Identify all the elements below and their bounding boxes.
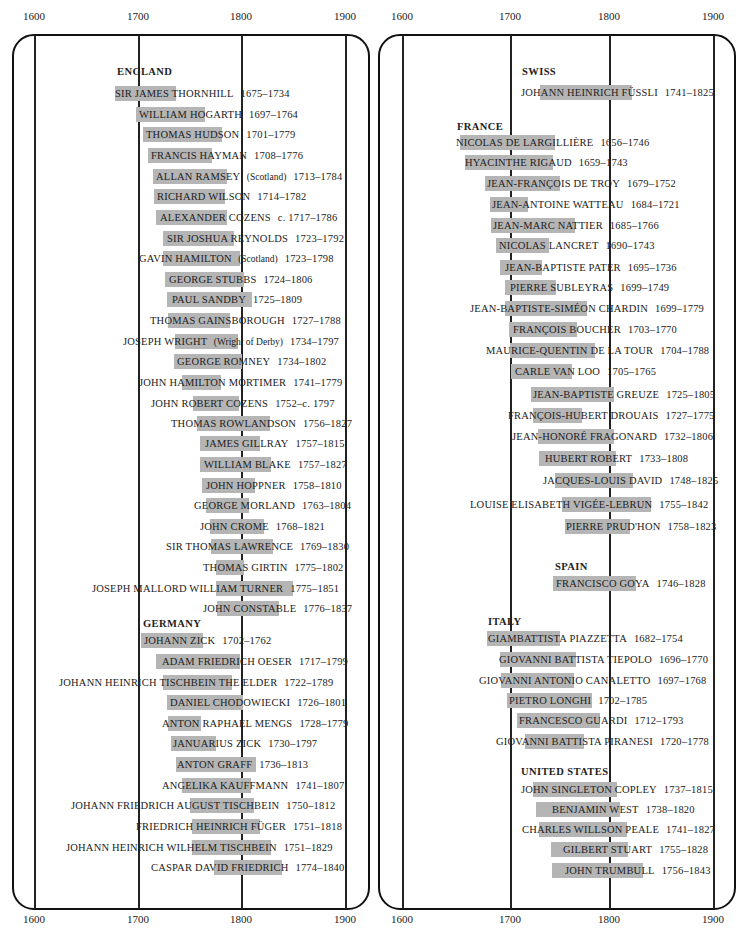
axis-tick-bottom-left: 1800: [230, 913, 252, 925]
artist-name: THOMAS HUDSON: [146, 129, 239, 140]
artist-entry: JOHANN FRIEDRICH AUGUST TISCHBEIN1750–18…: [71, 799, 335, 813]
artist-years: 1702–1785: [598, 695, 647, 706]
artist-entry: THOMAS ROWLANDSON1756–1827: [171, 417, 352, 431]
artist-name: JOHANN ZICK: [144, 635, 215, 646]
artist-years: 1712–1793: [635, 715, 684, 726]
artist-entry: JOHANN HEINRICH WILHELM TISCHBEIN1751–18…: [66, 841, 333, 855]
artist-entry: RICHARD WILSON1714–1782: [157, 190, 306, 204]
artist-years: 1685–1766: [610, 220, 659, 231]
artist-years: 1713–1784: [293, 171, 342, 182]
axis-tick-bottom-right: 1900: [702, 913, 724, 925]
artist-years: 1714–1782: [257, 191, 306, 202]
artist-years: 1741–1825: [665, 87, 714, 98]
artist-name: CARLE VAN LOO: [515, 366, 600, 377]
artist-years: 1758–1823: [667, 521, 716, 532]
artist-entry: WILLIAM BLAKE1757–1827: [204, 458, 347, 472]
artist-note: (Wright of Derby): [211, 337, 283, 347]
artist-years: 1727–1775: [666, 410, 715, 421]
century-gridline: [713, 35, 715, 909]
artist-entry: JOHANN HEINRICH TISCHBEIN THE ELDER1722–…: [59, 676, 333, 690]
artist-years: 1728–1779: [299, 718, 348, 729]
artist-entry: JOHN HAMILTON MORTIMER1741–1779: [139, 376, 342, 390]
artist-name: NICOLAS LANCRET: [499, 240, 599, 251]
artist-name: JOHN SINGLETON COPLEY: [521, 784, 657, 795]
artist-years: 1725–1809: [253, 294, 302, 305]
axis-tick-bottom-left: 1900: [334, 913, 356, 925]
artist-entry: LOUISE ELISABETH VIGÉE-LEBRUN1755–1842: [470, 498, 708, 512]
artist-years: 1738–1820: [646, 804, 695, 815]
artist-entry: CHARLES WILLSON PEALE1741–1827: [522, 823, 715, 837]
artist-entry: GIOVANNI ANTONIO CANALETTO1697–1768: [479, 674, 707, 688]
artist-name: GIOVANNI BATTISTA PIRANESI: [496, 736, 653, 747]
axis-tick-top-right: 1600: [391, 10, 413, 22]
artist-years: 1727–1788: [292, 315, 341, 326]
artist-entry: JOHN CONSTABLE1776–1837: [203, 602, 352, 616]
artist-name: JOHN TRUMBULL: [565, 865, 655, 876]
artist-years: 1752–c. 1797: [275, 398, 335, 409]
artist-years: 1763–1804: [302, 500, 351, 511]
artist-name: GIOVANNI BATTISTA TIEPOLO: [499, 654, 652, 665]
artist-name: THOMAS GAINSBOROUGH: [150, 315, 285, 326]
artist-name: JOHN HAMILTON MORTIMER: [139, 377, 286, 388]
artist-years: 1705–1765: [607, 366, 656, 377]
artist-years: 1741–1827: [666, 824, 715, 835]
axis-tick-top-left: 1600: [23, 10, 45, 22]
artist-years: 1768–1821: [276, 521, 325, 532]
artist-name: FRANCESCO GUARDI: [519, 715, 628, 726]
artist-years: 1757–1827: [298, 459, 347, 470]
artist-name: CHARLES WILLSON PEALE: [522, 824, 659, 835]
artist-years: 1704–1788: [660, 345, 709, 356]
artist-name: JOSEPH WRIGHT: [123, 336, 207, 347]
artist-name: JAMES GILLRAY: [205, 438, 289, 449]
artist-years: 1699–1749: [620, 282, 669, 293]
country-heading: SWISS: [522, 65, 556, 79]
artist-name: JOHANN HEINRICH TISCHBEIN THE ELDER: [59, 677, 277, 688]
artist-years: 1736–1813: [259, 759, 308, 770]
artist-years: 1723–1798: [285, 253, 334, 264]
artist-name: GIOVANNI ANTONIO CANALETTO: [479, 675, 650, 686]
artist-name: GILBERT STUART: [563, 844, 652, 855]
artist-entry: JANUARIUS ZICK1730–1797: [173, 737, 317, 751]
artist-years: 1734–1797: [290, 336, 339, 347]
artist-entry: NICOLAS DE LARGILLIÈRE1656–1746: [456, 136, 649, 150]
artist-years: 1748–1825: [669, 475, 718, 486]
artist-entry: PIERRE SUBLEYRAS1699–1749: [510, 281, 669, 295]
artist-years: 1675–1734: [241, 88, 290, 99]
artist-years: 1722–1789: [284, 677, 333, 688]
artist-entry: GEORGE MORLAND1763–1804: [194, 499, 351, 513]
artist-entry: JEAN-HONORÉ FRAGONARD1732–1806: [512, 430, 713, 444]
artist-entry: JOSEPH WRIGHT (Wright of Derby)1734–1797: [123, 335, 339, 349]
artist-entry: ANTON RAPHAEL MENGS1728–1779: [162, 717, 348, 731]
artist-years: 1695–1736: [628, 262, 677, 273]
artist-entry: BENJAMIN WEST1738–1820: [552, 803, 695, 817]
artist-years: 1774–1840: [295, 862, 344, 873]
artist-name: ANTON GRAFF: [177, 759, 252, 770]
artist-years: 1720–1778: [660, 736, 709, 747]
artist-years: c. 1717–1786: [278, 212, 338, 223]
artist-entry: JEAN-BAPTISTE GREUZE1725–1805: [533, 388, 715, 402]
artist-name: SIR THOMAS LAWRENCE: [166, 541, 293, 552]
axis-tick-bottom-right: 1800: [598, 913, 620, 925]
artist-name: SIR JAMES THORNHILL: [115, 88, 234, 99]
artist-entry: CASPAR DAVID FRIEDRICH1774–1840: [151, 861, 345, 875]
artist-name: PIETRO LONGHI: [509, 695, 591, 706]
artist-name: FRANÇOIS-HUBERT DROUAIS: [508, 410, 659, 421]
country-heading: UNITED STATES: [521, 765, 608, 779]
century-gridline: [138, 35, 140, 909]
artist-entry: PIETRO LONGHI1702–1785: [509, 694, 647, 708]
artist-name: JEAN-MARC NATTIER: [493, 220, 603, 231]
artist-entry: ADAM FRIEDRICH OESER1717–1799: [162, 655, 348, 669]
artist-name: JEAN-FRANÇOIS DE TROY: [487, 178, 620, 189]
country-heading: ENGLAND: [117, 65, 172, 79]
artist-entry: FRANCESCO GUARDI1712–1793: [519, 714, 684, 728]
artist-years: 1775–1851: [290, 583, 339, 594]
artist-entry: JACQUES-LOUIS DAVID1748–1825: [543, 474, 718, 488]
artist-entry: JEAN-ANTOINE WATTEAU1684–1721: [492, 198, 680, 212]
artist-name: FRANCISCO GOYA: [556, 578, 650, 589]
artist-name: CASPAR DAVID FRIEDRICH: [151, 862, 288, 873]
artist-name: RICHARD WILSON: [157, 191, 250, 202]
artist-years: 1717–1799: [299, 656, 348, 667]
artist-years: 1732–1806: [664, 431, 713, 442]
artist-entry: FRANÇOIS-HUBERT DROUAIS1727–1775: [508, 409, 715, 423]
artist-entry: THOMAS HUDSON1701–1779: [146, 128, 295, 142]
